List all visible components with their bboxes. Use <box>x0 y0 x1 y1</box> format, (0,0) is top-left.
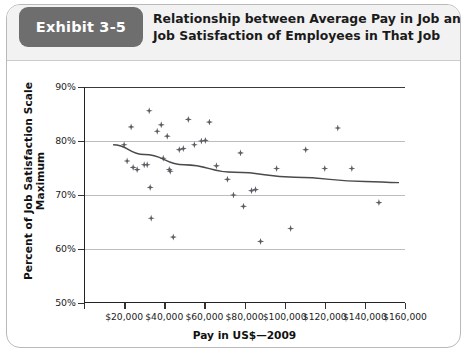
x-tick-mark <box>325 303 326 309</box>
exhibit-title-line-1: Relationship between Average Pay in Job … <box>153 10 449 27</box>
exhibit-header: Exhibit 3-5 Relationship between Average… <box>7 5 460 61</box>
x-axis-label: Pay in US$—2009 <box>84 329 405 341</box>
exhibit-card: Exhibit 3-5 Relationship between Average… <box>6 4 461 348</box>
y-tick-label: 90% <box>36 81 76 92</box>
exhibit-number-badge: Exhibit 3-5 <box>19 7 143 47</box>
x-tick-mark <box>245 303 246 309</box>
exhibit-title: Relationship between Average Pay in Job … <box>153 10 449 44</box>
trend-line-path <box>113 145 399 183</box>
y-tick-label: 70% <box>36 189 76 200</box>
y-tick-label: 60% <box>36 243 76 254</box>
trend-line <box>84 87 405 303</box>
x-tick-mark <box>204 303 205 309</box>
y-axis-label: Percent of Job Satisfaction Scale Maximu… <box>22 66 46 296</box>
scatter-chart: Percent of Job Satisfaction Scale Maximu… <box>7 61 461 348</box>
x-tick-mark <box>124 303 125 309</box>
x-tick-mark <box>164 303 165 309</box>
x-tick-mark <box>365 303 366 309</box>
exhibit-number-label: Exhibit 3-5 <box>36 19 126 35</box>
x-tick-mark <box>84 303 85 309</box>
y-tick-label: 80% <box>36 135 76 146</box>
x-tick-mark <box>405 303 406 309</box>
x-tick-mark <box>285 303 286 309</box>
x-tick-label: $160,000 <box>377 311 433 322</box>
exhibit-page: Exhibit 3-5 Relationship between Average… <box>0 0 471 358</box>
exhibit-title-line-2: Job Satisfaction of Employees in That Jo… <box>153 27 449 44</box>
y-tick-label: 50% <box>36 297 76 308</box>
